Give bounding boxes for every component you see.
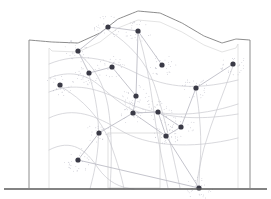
- halo-dot: [221, 68, 222, 69]
- network-edge-10: [181, 88, 196, 127]
- halo-dot: [165, 132, 166, 133]
- network-node-n11[interactable]: [130, 110, 135, 115]
- halo-dot: [90, 140, 91, 141]
- network-node-n6[interactable]: [109, 64, 114, 69]
- halo-dot: [222, 67, 223, 68]
- halo-dot: [122, 64, 123, 65]
- halo-dot: [114, 36, 115, 37]
- network-node-n15[interactable]: [96, 130, 101, 135]
- network-node-n17[interactable]: [196, 185, 201, 190]
- halo-dot: [83, 54, 84, 55]
- halo-dot: [68, 167, 69, 168]
- halo-dot: [165, 60, 166, 61]
- halo-dot: [138, 113, 139, 114]
- halo-dot: [87, 127, 88, 128]
- halo-dot: [82, 161, 83, 162]
- halo-dot: [64, 162, 65, 163]
- halo-dot: [180, 121, 181, 122]
- network-node-n12[interactable]: [155, 109, 160, 114]
- halo-dot: [169, 129, 170, 130]
- network-node-n14[interactable]: [163, 133, 168, 138]
- halo-dot: [128, 93, 129, 94]
- halo-dot: [66, 53, 67, 54]
- halo-dot: [96, 26, 97, 27]
- network-node-n4[interactable]: [159, 62, 164, 67]
- halo-dot: [99, 75, 100, 76]
- halo-dot: [181, 116, 182, 117]
- halo-dot: [185, 84, 186, 85]
- halo-dot: [70, 55, 71, 56]
- halo-dot: [121, 114, 122, 115]
- halo-dot: [73, 171, 74, 172]
- halo-dot: [166, 142, 167, 143]
- halo-dot: [139, 102, 140, 103]
- network-node-n3[interactable]: [75, 48, 80, 53]
- halo-dot: [103, 24, 104, 25]
- network-node-n16[interactable]: [75, 157, 80, 162]
- halo-dot: [200, 97, 201, 98]
- halo-dot: [149, 96, 150, 97]
- halo-dot: [223, 64, 224, 65]
- halo-dot: [89, 82, 90, 83]
- halo-dot: [148, 35, 149, 36]
- halo-dot: [125, 109, 126, 110]
- halo-dot: [98, 126, 99, 127]
- halo-dot: [168, 62, 169, 63]
- flow-curve-6: [138, 33, 168, 188]
- halo-dot: [75, 166, 76, 167]
- halo-dot: [131, 38, 132, 39]
- halo-dot: [138, 35, 139, 36]
- halo-dot: [204, 92, 205, 93]
- halo-dot: [177, 140, 178, 141]
- network-node-n2[interactable]: [135, 28, 140, 33]
- halo-dot: [175, 65, 176, 66]
- halo-dot: [169, 110, 170, 111]
- halo-dot: [123, 96, 124, 97]
- halo-dot: [156, 73, 157, 74]
- halo-dot: [127, 35, 128, 36]
- halo-dot: [126, 92, 127, 93]
- halo-dot: [172, 130, 173, 131]
- halo-dot: [137, 121, 138, 122]
- halo-dot: [83, 68, 84, 69]
- halo-dot: [92, 82, 93, 83]
- network-node-n1[interactable]: [105, 24, 110, 29]
- halo-dot: [184, 89, 185, 90]
- halo-dot: [174, 133, 175, 134]
- halo-dot: [166, 68, 167, 69]
- halo-dot: [166, 108, 167, 109]
- halo-dot: [84, 156, 85, 157]
- halo-dot: [205, 198, 206, 199]
- halo-dot: [164, 141, 165, 142]
- halo-dot: [151, 108, 152, 109]
- halo-dot: [192, 190, 193, 191]
- halo-dot: [239, 64, 240, 65]
- halo-dot: [68, 162, 69, 163]
- network-node-n9[interactable]: [193, 85, 198, 90]
- halo-dot: [233, 59, 234, 60]
- halo-dot: [121, 115, 122, 116]
- network-node-n5[interactable]: [230, 61, 235, 66]
- halo-dot: [125, 104, 126, 105]
- network-node-n10[interactable]: [133, 93, 138, 98]
- node-halos: [47, 16, 244, 199]
- halo-dot: [208, 191, 209, 192]
- halo-dot: [155, 107, 156, 108]
- halo-dot: [168, 64, 169, 65]
- network-node-n8[interactable]: [57, 82, 62, 87]
- halo-dot: [69, 164, 70, 165]
- halo-dot: [71, 58, 72, 59]
- halo-dot: [62, 79, 63, 80]
- halo-dot: [170, 126, 171, 127]
- halo-dot: [125, 102, 126, 103]
- network-node-n13[interactable]: [178, 124, 183, 129]
- halo-dot: [88, 57, 89, 58]
- halo-dot: [110, 59, 111, 60]
- network-node-n7[interactable]: [86, 70, 91, 75]
- halo-dot: [106, 134, 107, 135]
- halo-dot: [133, 116, 134, 117]
- halo-dot: [188, 124, 189, 125]
- halo-dot: [76, 43, 77, 44]
- halo-dot: [175, 118, 176, 119]
- halo-dot: [75, 72, 76, 73]
